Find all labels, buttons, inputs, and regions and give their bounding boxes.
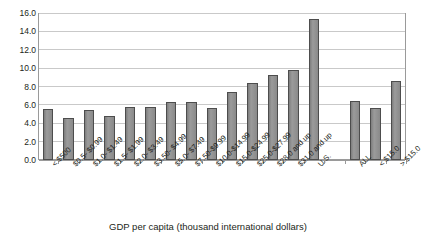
bar [370,108,381,160]
y-axis-tick-label: 0.0 [2,156,36,164]
y-axis-tick-label: 2.0 [2,138,36,146]
bar [43,109,54,160]
y-axis-tick-label: 12.0 [2,46,36,54]
y-axis-tick-label: 14.0 [2,27,36,35]
y-axis-tick-label: 10.0 [2,64,36,72]
x-axis-category-labels: < $500$0.5- $0.99$1.0- $1.49$1.5- $1.99$… [38,162,406,222]
y-axis-labels: 0.02.04.06.08.010.012.014.016.0 [0,13,36,160]
y-axis-tick-label: 4.0 [2,119,36,127]
y-axis-tick-label: 16.0 [2,9,36,17]
y-axis-tick-label: 6.0 [2,101,36,109]
bar [350,101,361,160]
y-axis-tick-label: 8.0 [2,83,36,91]
x-axis-title: GDP per capita (thousand international d… [0,221,416,232]
